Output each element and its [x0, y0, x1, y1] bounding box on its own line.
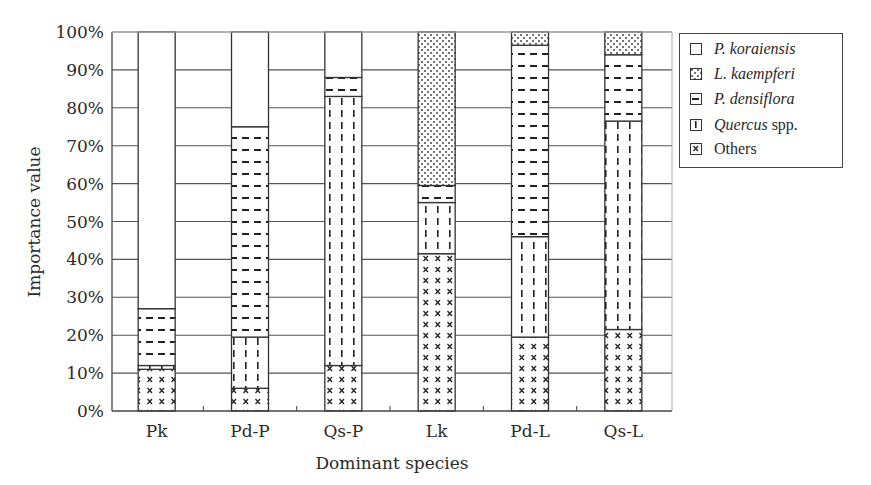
- y-axis-title: Importance value: [24, 146, 44, 297]
- bar-segment: [418, 185, 455, 202]
- y-tick-label: 60%: [66, 174, 104, 194]
- bar-segment: [232, 388, 269, 411]
- legend-item-p-koraiensis: P. koraiensis: [690, 38, 795, 60]
- bar-segment: [512, 237, 549, 337]
- bar-segment: [605, 32, 642, 55]
- legend-label: L. kaempferi: [714, 65, 795, 83]
- bar-segment: [512, 32, 549, 45]
- swatch-hdash-icon: [690, 93, 702, 105]
- legend-item-others: Others: [690, 138, 757, 160]
- y-tick-label: 70%: [66, 136, 104, 156]
- bar-segment: [325, 366, 362, 411]
- swatch-vdash-icon: [690, 119, 702, 131]
- x-tick-label: Pd-L: [510, 421, 549, 441]
- bar-segment: [605, 330, 642, 411]
- y-tick-label: 90%: [66, 60, 104, 80]
- gridlines: [112, 32, 672, 373]
- x-axis-title: Dominant species: [315, 453, 468, 473]
- bar-segment: [138, 32, 175, 309]
- bar-segment: [325, 77, 362, 96]
- x-tick-label: Qs-P: [323, 421, 363, 441]
- legend-item-l-kaempferi: L. kaempferi: [690, 63, 795, 85]
- x-tick-label: Qs-L: [603, 421, 643, 441]
- legend-label: Others: [714, 140, 757, 158]
- bar-segment: [232, 337, 269, 388]
- y-tick-label: 100%: [55, 22, 104, 42]
- bar-segment: [605, 121, 642, 329]
- legend-item-p-densiflora: P. densiflora: [690, 88, 795, 110]
- bar-segment: [138, 309, 175, 366]
- bar-segment: [232, 127, 269, 337]
- x-tick-label: Pk: [146, 421, 168, 441]
- legend-label: P. koraiensis: [714, 40, 795, 58]
- legend-label: Quercus: [714, 116, 768, 134]
- bar-segment: [138, 369, 175, 411]
- bar-segment: [418, 254, 455, 411]
- bar-segment: [512, 337, 549, 411]
- x-tick-label: Lk: [426, 421, 448, 441]
- bar-segment: [325, 96, 362, 365]
- swatch-blank-icon: [690, 43, 702, 55]
- y-tick-label: 80%: [66, 98, 104, 118]
- y-tick-label: 50%: [66, 212, 104, 232]
- y-tick-label: 0%: [77, 401, 104, 421]
- y-tick-label: 40%: [66, 249, 104, 269]
- legend-label: P. densiflora: [714, 90, 795, 108]
- bar-segment: [605, 55, 642, 121]
- y-tick-label: 20%: [66, 325, 104, 345]
- y-tick-label: 30%: [66, 287, 104, 307]
- swatch-dots-icon: [690, 68, 702, 80]
- bar-segment: [232, 32, 269, 127]
- bar-segment: [325, 32, 362, 77]
- y-tick-label: 10%: [66, 363, 104, 383]
- bar-segment: [512, 45, 549, 236]
- legend-item-quercus: Quercus spp.: [690, 114, 798, 136]
- swatch-x-icon: [690, 143, 702, 155]
- bar-segment: [418, 203, 455, 254]
- x-tick-label: Pd-P: [230, 421, 270, 441]
- bar-segment: [418, 32, 455, 185]
- legend: P. koraiensis L. kaempferi P. densiflora…: [679, 33, 843, 168]
- legend-label-suffix: spp.: [768, 116, 798, 134]
